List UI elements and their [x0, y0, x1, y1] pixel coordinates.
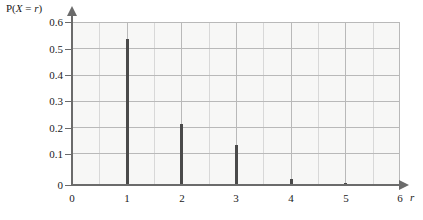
gridline-horizontal: [72, 75, 400, 76]
y-tick-label: 0: [23, 179, 63, 191]
bar-r3: [235, 145, 238, 185]
x-tick-label: 3: [224, 192, 248, 204]
gridline-vertical-major: [345, 22, 346, 185]
x-axis-line: [71, 184, 403, 186]
gridline-vertical-major: [291, 22, 292, 185]
y-axis-title-variable: X: [16, 2, 23, 14]
y-tick-label: 0.4: [23, 69, 63, 81]
gridline-vertical-minor: [263, 22, 264, 185]
y-tick-label: 0.3: [23, 95, 63, 107]
x-axis-title: r: [410, 191, 414, 203]
x-tick-label: 6: [388, 192, 412, 204]
bar-r1: [126, 39, 129, 185]
gridline-vertical-minor: [99, 22, 100, 185]
y-axis-title: P(X = r): [6, 2, 42, 14]
y-axis-title-equals: =: [23, 2, 35, 14]
x-tick-label: 0: [60, 192, 84, 204]
probability-distribution-chart: 0.6 0.5 0.4 0.3 0.2 0.1 0 0 1 2 3 4 5 6 …: [0, 0, 423, 220]
gridline-horizontal: [72, 48, 400, 49]
y-tick: [65, 154, 72, 155]
y-axis-title-suffix: ): [39, 2, 43, 14]
x-tick-label: 5: [334, 192, 358, 204]
y-axis-title-prefix: P(: [6, 2, 16, 14]
y-tick: [65, 128, 72, 129]
gridline-vertical-minor: [373, 22, 374, 185]
y-tick-label: 0.6: [23, 16, 63, 28]
plot-border-right: [399, 22, 400, 185]
y-tick: [65, 101, 72, 102]
y-tick: [65, 49, 72, 50]
y-tick-label: 0.2: [23, 122, 63, 134]
y-tick: [65, 22, 72, 23]
y-tick-label: 0.5: [23, 43, 63, 55]
x-tick-label: 4: [279, 192, 303, 204]
y-axis-line: [71, 14, 73, 186]
bar-r2: [180, 124, 183, 185]
gridline-vertical-minor: [209, 22, 210, 185]
x-tick-label: 1: [115, 192, 139, 204]
gridline-vertical-minor: [318, 22, 319, 185]
gridline-horizontal: [72, 22, 400, 23]
x-axis-arrow-icon: [399, 180, 409, 190]
x-tick-label: 2: [170, 192, 194, 204]
y-tick-label: 0.1: [23, 148, 63, 160]
y-tick: [65, 185, 72, 186]
gridline-horizontal: [72, 101, 400, 102]
gridline-vertical-minor: [154, 22, 155, 185]
gridline-horizontal: [72, 127, 400, 128]
y-axis-arrow-icon: [67, 6, 77, 16]
plot-area: [72, 22, 400, 185]
y-tick: [65, 75, 72, 76]
